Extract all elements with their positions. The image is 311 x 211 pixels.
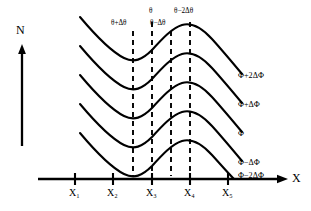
x-tick-label-4: X₄ (184, 188, 195, 198)
curve-set (80, 17, 242, 179)
diagram-figure: N X θ+Δθ θ θ−Δθ θ−2Δθ Φ+2ΔΦ Φ+ΔΦ Φ Φ−ΔΦ … (0, 0, 311, 211)
angle-label-theta-plus-delta: θ+Δθ (111, 20, 127, 27)
curve-label-phi: Φ (238, 130, 244, 138)
angle-label-theta-minus-2delta: θ−2Δθ (174, 8, 193, 15)
diagram-canvas (0, 0, 311, 211)
x-tick-label-5: X₅ (222, 188, 233, 198)
angle-label-theta: θ (149, 8, 152, 15)
curve-label-phi-minus-dphi: Φ−ΔΦ (238, 159, 260, 167)
curve-label-phi-plus-dphi: Φ+ΔΦ (238, 101, 260, 109)
curve-phi-minus-2dphi (80, 133, 234, 179)
x-tick-label-2: X₂ (107, 188, 118, 198)
angle-label-theta-minus-delta: θ−Δθ (150, 20, 166, 27)
x-tick-label-3: X₃ (146, 188, 157, 198)
x-axis-arrowhead (277, 175, 288, 183)
y-axis-arrowhead (18, 44, 26, 54)
curve-phi-plus-dphi (80, 46, 242, 103)
x-axis-label: X (292, 172, 301, 184)
curve-phi-minus-dphi (80, 104, 242, 161)
curve-label-phi-plus-2dphi: Φ+2ΔΦ (238, 72, 264, 80)
y-axis-label: N (16, 24, 25, 36)
x-tick-label-1: X₁ (69, 188, 80, 198)
curve-label-phi-minus-2dphi: Φ−2ΔΦ (238, 172, 264, 180)
y-axis (18, 44, 26, 146)
curve-phi (80, 75, 242, 132)
